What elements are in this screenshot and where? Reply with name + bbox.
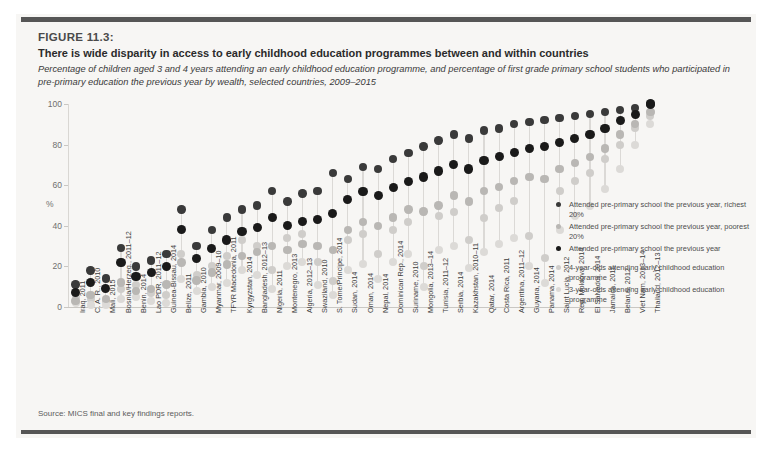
- data-point: [586, 153, 594, 161]
- data-point: [328, 209, 337, 218]
- category-label: Kyrgyzstan, 2014: [245, 257, 254, 313]
- data-point: [450, 191, 458, 199]
- legend-item: Attended pre-primary school the previous…: [556, 222, 752, 241]
- data-point: [298, 217, 307, 226]
- data-point: [283, 221, 292, 230]
- data-point: [540, 142, 549, 151]
- data-point: [374, 165, 382, 173]
- legend-marker-icon: [556, 202, 561, 207]
- data-point: [343, 195, 352, 204]
- data-point: [600, 124, 609, 133]
- data-point: [404, 250, 412, 258]
- category-label: Mongolia, 2013–14: [426, 251, 435, 313]
- data-point: [616, 106, 624, 114]
- data-point: [268, 187, 276, 195]
- chart-legend: Attended pre-primary school the previous…: [556, 200, 752, 307]
- data-point: [192, 242, 200, 250]
- data-point: [177, 250, 185, 258]
- data-point: [435, 212, 443, 220]
- category-label: Qatar, 2014: [487, 275, 496, 313]
- y-tick-label: 100: [36, 99, 62, 109]
- data-point: [313, 187, 321, 195]
- data-point: [329, 169, 337, 177]
- data-point: [238, 205, 246, 213]
- connector-stem: [181, 210, 182, 279]
- data-point: [359, 230, 367, 238]
- data-point: [132, 262, 140, 270]
- data-point: [495, 152, 504, 161]
- data-point: [465, 197, 473, 205]
- category-label: Panama, 2014: [547, 266, 556, 313]
- data-point: [404, 177, 413, 186]
- category-label: Dominican Rep., 2014: [396, 241, 405, 313]
- data-point: [435, 246, 443, 254]
- data-point: [192, 254, 201, 263]
- legend-marker-icon: [556, 265, 561, 270]
- data-point: [450, 208, 458, 216]
- category-label: Montenegro, 2013: [290, 254, 299, 313]
- data-point: [585, 130, 594, 139]
- data-point: [525, 144, 534, 153]
- data-point: [404, 218, 412, 226]
- data-point: [480, 214, 488, 222]
- category-label: Lao PDR, 2011–12: [154, 251, 163, 313]
- legend-marker-icon: [556, 287, 561, 292]
- data-point: [540, 175, 548, 183]
- category-label: Oman, 2014: [366, 273, 375, 313]
- data-point: [359, 260, 367, 268]
- category-label: Argentina, 2011–12: [517, 250, 526, 313]
- data-point: [208, 226, 216, 234]
- data-point: [404, 149, 412, 157]
- category-label: Swaziland, 2010: [320, 259, 329, 313]
- legend-label: 3-year-olds attending early childhood ed…: [569, 285, 724, 304]
- data-point: [464, 164, 473, 173]
- data-point: [434, 201, 442, 209]
- category-label: Nepal, 2014: [381, 274, 390, 313]
- category-label: S. Tome/Principe, 2014: [335, 238, 344, 313]
- legend-label: Attended pre-primary school the previous…: [569, 200, 746, 219]
- legend-label: Attended pre-primary school the previous…: [569, 244, 721, 253]
- data-point: [479, 156, 488, 165]
- data-point: [404, 205, 412, 213]
- category-label: Myanmar, 2009–10: [214, 251, 223, 313]
- data-point: [177, 258, 185, 266]
- data-point: [419, 142, 427, 150]
- data-point: [480, 126, 488, 134]
- data-point: [601, 155, 609, 163]
- connector-stem: [272, 191, 273, 288]
- data-point: [646, 99, 655, 108]
- connector-stem: [257, 206, 258, 275]
- category-label: Guinea-Bissau, 2014: [169, 245, 178, 313]
- data-point: [541, 254, 549, 262]
- data-point: [510, 177, 518, 185]
- data-point: [450, 242, 458, 250]
- data-point: [374, 250, 382, 258]
- data-point: [555, 138, 564, 147]
- data-point: [344, 236, 352, 244]
- category-label: Iraq, 2011: [78, 281, 87, 313]
- y-tick-mark: [64, 307, 68, 308]
- data-point: [298, 189, 306, 197]
- data-point: [601, 185, 609, 193]
- data-point: [359, 163, 367, 171]
- data-point: [510, 120, 518, 128]
- y-axis-label: %: [46, 199, 54, 209]
- data-point: [434, 166, 443, 175]
- category-label: Algeria, 2012–13: [305, 258, 314, 313]
- data-point: [253, 223, 262, 232]
- data-point: [298, 240, 306, 248]
- category-label: C. A. R., 2010: [93, 268, 102, 313]
- data-point: [616, 141, 624, 149]
- data-point: [555, 165, 563, 173]
- data-point: [570, 134, 579, 143]
- data-point: [389, 226, 397, 234]
- data-point: [313, 215, 322, 224]
- data-point: [283, 234, 291, 242]
- legend-item: 4-year-olds attending early childhood ed…: [556, 263, 752, 282]
- connector-stem: [347, 179, 348, 270]
- data-point: [540, 116, 548, 124]
- legend-item: Attended pre-primary school the previous…: [556, 244, 752, 254]
- connector-stem: [317, 191, 318, 284]
- connector-stem: [302, 193, 303, 262]
- category-label: TFYR Macedonia, 2011: [229, 236, 238, 313]
